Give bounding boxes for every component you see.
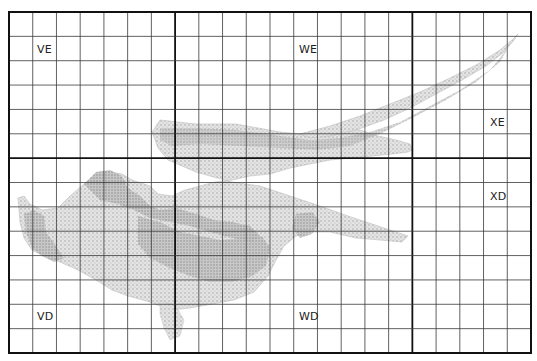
map-grid xyxy=(9,12,531,353)
map-canvas xyxy=(0,0,537,361)
sheet-label-wd[interactable]: WD xyxy=(299,310,319,323)
sheet-label-ve[interactable]: VE xyxy=(37,43,52,56)
sheet-label-we[interactable]: WE xyxy=(299,43,317,56)
sheet-label-vd[interactable]: VD xyxy=(37,310,53,323)
sheet-label-xd[interactable]: XD xyxy=(490,190,506,203)
island-panhandle xyxy=(300,34,518,138)
sheet-label-xe[interactable]: XE xyxy=(490,116,505,129)
